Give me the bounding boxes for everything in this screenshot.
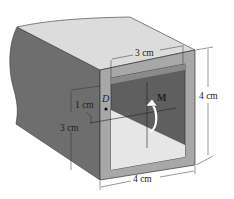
point-d-label: D [101, 93, 110, 104]
dimension-1cm-label: 1 cm [75, 100, 94, 110]
dimension-right [196, 47, 213, 165]
point-d-marker [104, 107, 107, 110]
box-beam-diagram: M D 3 cm 4 cm 4 cm 1 cm 3 cm [0, 0, 234, 199]
dimension-right-label: 4 cm [199, 91, 218, 101]
dimension-bottom-label: 4 cm [133, 174, 152, 184]
moment-label: M [157, 92, 167, 103]
dimension-top-label: 3 cm [135, 48, 154, 58]
dimension-3cm-label: 3 cm [60, 123, 79, 133]
